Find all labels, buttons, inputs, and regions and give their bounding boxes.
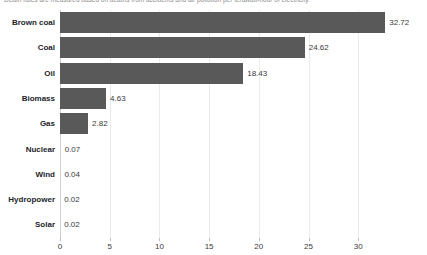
- bar-value-label: 0.02: [64, 212, 80, 237]
- bar-row: Biomass4.63: [0, 86, 427, 111]
- bar-value-label: 2.82: [92, 111, 108, 136]
- chart-subtitle: Death rates are measured based on deaths…: [4, 0, 424, 4]
- plot-area: Brown coal32.72Coal24.62Oil18.43Biomass4…: [0, 10, 427, 238]
- bar-chart: Death rates are measured based on deaths…: [0, 0, 427, 255]
- bar-rows: Brown coal32.72Coal24.62Oil18.43Biomass4…: [0, 10, 427, 238]
- x-tick-label: 5: [107, 242, 111, 251]
- x-tick-label: 25: [304, 242, 313, 251]
- category-label: Brown coal: [0, 10, 55, 35]
- x-tick: [110, 238, 111, 241]
- bar-row: Gas2.82: [0, 111, 427, 136]
- x-tick: [358, 238, 359, 241]
- x-tick: [309, 238, 310, 241]
- x-tick: [209, 238, 210, 241]
- bar-value-label: 0.07: [65, 137, 81, 162]
- bar-row: Coal24.62: [0, 35, 427, 60]
- bar-value-label: 4.63: [110, 86, 126, 111]
- category-label: Coal: [0, 35, 55, 60]
- bar-row: Oil18.43: [0, 61, 427, 86]
- x-tick: [159, 238, 160, 241]
- category-label: Hydropower: [0, 187, 55, 212]
- x-axis: 051015202530: [0, 238, 427, 255]
- category-label: Wind: [0, 162, 55, 187]
- category-label: Solar: [0, 212, 55, 237]
- bar-value-label: 0.04: [64, 162, 80, 187]
- category-label: Nuclear: [0, 137, 55, 162]
- bar: [60, 37, 305, 58]
- bar-value-label: 18.43: [247, 61, 267, 86]
- bar-row: Nuclear0.07: [0, 137, 427, 162]
- x-tick: [60, 238, 61, 241]
- category-label: Gas: [0, 111, 55, 136]
- bar: [60, 88, 106, 109]
- bar-row: Brown coal32.72: [0, 10, 427, 35]
- bar: [60, 63, 243, 84]
- bar: [60, 113, 88, 134]
- x-tick-label: 0: [58, 242, 62, 251]
- x-tick-label: 15: [205, 242, 214, 251]
- bar-row: Wind0.04: [0, 162, 427, 187]
- x-tick-label: 30: [354, 242, 363, 251]
- category-label: Biomass: [0, 86, 55, 111]
- x-tick-label: 10: [155, 242, 164, 251]
- bar-row: Hydropower0.02: [0, 187, 427, 212]
- bar-value-label: 24.62: [309, 35, 329, 60]
- x-tick-label: 20: [254, 242, 263, 251]
- bar: [60, 12, 385, 33]
- bar-value-label: 0.02: [64, 187, 80, 212]
- x-tick: [259, 238, 260, 241]
- bar-value-label: 32.72: [389, 10, 409, 35]
- category-label: Oil: [0, 61, 55, 86]
- bar-row: Solar0.02: [0, 212, 427, 237]
